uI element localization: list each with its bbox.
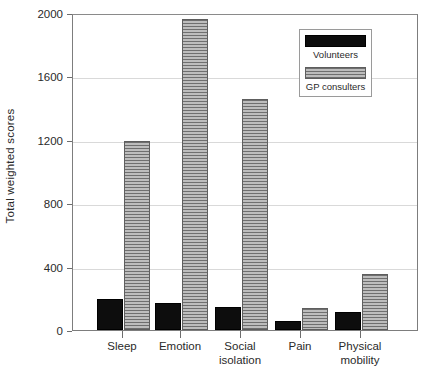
bar-sleep-volunteers <box>97 299 123 330</box>
legend-label-gp: GP consulters <box>305 79 366 99</box>
legend-label-volunteers: Volunteers <box>305 47 366 67</box>
x-axis-tick <box>180 331 181 338</box>
bar-emotion-volunteers <box>155 303 181 330</box>
x-axis-tick-label: Physicalmobility <box>310 340 410 367</box>
x-axis-tick <box>360 331 361 338</box>
x-axis-tick <box>300 331 301 338</box>
bar-physical-mobility-gp-consulters <box>362 274 388 330</box>
x-axis-tick <box>240 331 241 338</box>
x-axis-tick-label-line: mobility <box>310 354 410 368</box>
bar-chart-figure: Total weighted scores 040080012001600200… <box>0 0 432 379</box>
y-axis-tick-label: 1600 <box>12 71 72 83</box>
y-axis-tick-label: 400 <box>12 262 72 274</box>
x-axis-tick <box>122 331 123 338</box>
bar-social-isolation-gp-consulters <box>242 99 268 330</box>
x-axis-tick-label-line: Physical <box>310 340 410 354</box>
bar-emotion-gp-consulters <box>182 19 208 330</box>
chart-legend: VolunteersGP consulters <box>299 29 372 97</box>
y-axis-tick-label: 2000 <box>12 8 72 20</box>
bar-pain-volunteers <box>275 321 301 330</box>
y-axis-tick-labels: 0400800120016002000 <box>0 0 72 379</box>
y-axis-tick-label: 1200 <box>12 135 72 147</box>
bar-social-isolation-volunteers <box>215 307 241 330</box>
y-axis-tick-label: 0 <box>12 325 72 337</box>
x-axis-tick-label-line: isolation <box>190 354 290 368</box>
y-axis-tick-label: 800 <box>12 198 72 210</box>
bar-pain-gp-consulters <box>302 308 328 330</box>
legend-swatch-volunteers <box>305 35 366 47</box>
bar-physical-mobility-volunteers <box>335 312 361 330</box>
legend-swatch-gp <box>305 67 366 79</box>
bar-sleep-gp-consulters <box>124 141 150 330</box>
